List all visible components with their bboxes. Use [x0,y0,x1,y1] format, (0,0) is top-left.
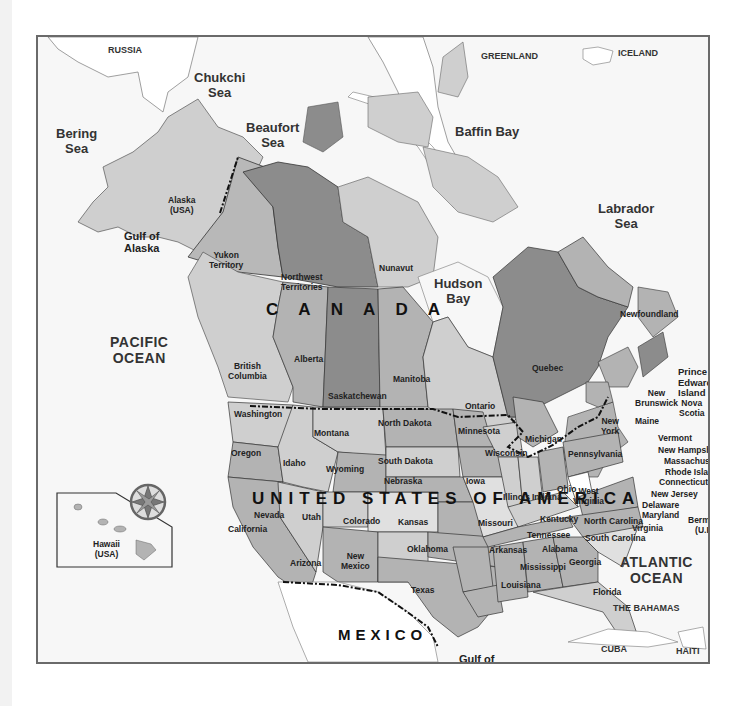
label-bering-sea: BeringSea [56,127,97,156]
label-cuba: CUBA [601,644,627,654]
label-iowa: Iowa [466,477,485,487]
label-quebec: Quebec [532,364,563,374]
label-ontario: Ontario [465,402,495,412]
label-michigan: Michigan [525,435,562,445]
label-nebraska: Nebraska [384,477,422,487]
label-north-dakota: North Dakota [378,419,431,429]
label-manitoba: Manitoba [393,375,430,385]
label-nevada: Nevada [254,511,284,521]
label-connecticut: Connecticut [659,478,708,488]
label-florida: Florida [593,588,621,598]
label-atlantic-ocean: ATLANTICOCEAN [620,555,693,586]
label-russia: RUSSIA [108,45,142,55]
label-new-york: NewYork [601,417,619,436]
label-illinois: Illinois [503,493,530,503]
label-kansas: Kansas [398,518,428,528]
label-california: California [228,525,267,535]
label-oregon: Oregon [231,449,261,459]
label-south-dakota: South Dakota [378,457,433,467]
label-minnesota: Minnesota [458,427,500,437]
label-tennessee: Tennessee [527,531,570,541]
label-massachusetts: Massachusetts [664,457,710,467]
label-nunavut: Nunavut [379,264,413,274]
label-west-virginia: WestVirginia [573,487,604,506]
label-saskatchewan: Saskatchewan [328,392,387,402]
label-pennsylvania: Pennsylvania [568,450,622,460]
label-maryland: Maryland [642,511,679,521]
label-gulf-of-mexico: Gulf ofMexico [458,653,495,664]
label-oklahoma: Oklahoma [407,545,448,555]
label-wisconsin: Wisconsin [485,449,527,459]
north-america-map: RUSSIA GREENLAND ICELAND ChukchiSea Beau… [36,35,710,664]
label-kentucky: Kentucky [540,515,578,525]
label-new-hampshire: New Hampshire [658,446,710,456]
label-beaufort-sea: BeaufortSea [246,121,299,150]
label-bermuda: Bermuda(U.K.) [688,516,710,535]
label-northwest-territories: NorthwestTerritories [281,273,323,292]
label-haiti: HAITI [676,646,700,656]
label-wyoming: Wyoming [326,465,364,475]
label-newfoundland: Newfoundland [620,310,679,320]
label-washington: Washington [234,410,282,420]
label-the-bahamas: THE BAHAMAS [613,603,680,613]
compass-rose-icon [123,477,173,527]
label-iceland: ICELAND [618,48,658,58]
label-utah: Utah [302,513,321,523]
label-nova-scotia: NovaScotia [679,399,705,418]
label-arkansas: Arkansas [489,546,527,556]
label-canada: C A N A D A [266,300,448,319]
label-montana: Montana [314,429,349,439]
label-hawaii: Hawaii(USA) [93,540,120,559]
label-baffin-bay: Baffin Bay [455,125,519,140]
label-georgia: Georgia [569,558,601,568]
label-vermont: Vermont [658,434,692,444]
label-missouri: Missouri [478,519,513,529]
label-mississippi: Mississippi [520,563,566,573]
label-south-carolina: South Carolina [585,534,645,544]
label-louisiana: Louisiana [501,581,541,591]
label-idaho: Idaho [283,459,306,469]
left-margin-strip [0,0,12,706]
label-arizona: Arizona [290,559,321,569]
label-alaska: Alaska(USA) [168,196,195,215]
label-new-jersey: New Jersey [651,490,698,500]
label-alabama: Alabama [542,545,577,555]
label-mexico: MEXICO [338,627,427,644]
label-maine: Maine [635,417,659,427]
label-chukchi-sea: ChukchiSea [194,71,245,100]
label-new-brunswick: NewBrunswick [635,389,678,408]
label-gulf-of-alaska: Gulf ofAlaska [124,230,159,255]
label-new-mexico: NewMexico [341,552,370,571]
label-labrador-sea: LabradorSea [598,202,654,231]
label-virginia: Virginia [632,524,663,534]
label-british-columbia: BritishColumbia [228,362,267,381]
label-prince-edward-island: PrinceEdwardIsland [678,367,710,399]
label-colorado: Colorado [343,517,380,527]
label-alberta: Alberta [294,355,323,365]
label-pacific-ocean: PACIFICOCEAN [110,335,168,366]
label-greenland: GREENLAND [481,51,538,61]
label-yukon: YukonTerritory [209,251,243,270]
label-texas: Texas [411,586,434,596]
